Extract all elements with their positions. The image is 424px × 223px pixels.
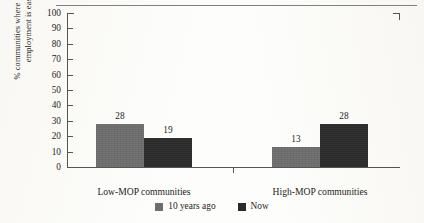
chart-page: % communities where private employment i…: [0, 0, 424, 223]
x-category-label-low-mop: Low-MOP communities: [64, 187, 224, 197]
y-tick-30: [68, 121, 73, 122]
bar-high-mop-10-years-ago: [272, 147, 320, 167]
y-tick-label-60: 60: [37, 71, 61, 80]
y-tick-label-0: 0: [37, 163, 61, 172]
y-tick-60: [68, 75, 73, 76]
y-tick-label-100: 100: [37, 9, 61, 18]
bar-low-mop-10-years-ago: [96, 124, 144, 167]
legend-item-now: Now: [238, 202, 269, 211]
legend-swatch-icon-now: [238, 203, 246, 211]
legend-swatch-icon-10-years-ago: [155, 203, 163, 211]
legend-label-10-years-ago: 10 years ago: [168, 202, 215, 211]
y-tick-90: [68, 28, 73, 29]
y-tick-100: [68, 13, 73, 14]
bar-label-low-mop-now: 19: [148, 126, 188, 135]
bar-high-mop-now: [320, 124, 368, 167]
y-tick-20: [68, 136, 73, 137]
y-tick-label-30: 30: [37, 117, 61, 126]
y-tick-50: [68, 90, 73, 91]
y-tick-label-40: 40: [37, 101, 61, 110]
bar-label-high-mop-10-years-ago: 13: [276, 135, 316, 144]
x-category-label-high-mop: High-MOP communities: [240, 187, 400, 197]
legend-item-10-years-ago: 10 years ago: [155, 202, 215, 211]
y-axis-title: % communities where private employment i…: [5, 0, 41, 113]
bar-low-mop-now: [144, 138, 192, 168]
y-tick-label-80: 80: [37, 40, 61, 49]
y-axis-title-line1: % communities where private: [12, 0, 23, 79]
axis-right-stub: [399, 13, 400, 20]
y-tick-0: [68, 167, 73, 168]
y-tick-label-90: 90: [37, 24, 61, 33]
y-axis-title-line2: employment is easy: [23, 0, 34, 79]
y-tick-label-10: 10: [37, 148, 61, 157]
y-tick-label-20: 20: [37, 132, 61, 141]
y-tick-80: [68, 44, 73, 45]
y-tick-40: [68, 105, 73, 106]
y-tick-70: [68, 59, 73, 60]
bar-label-high-mop-now: 28: [324, 112, 364, 121]
chart-legend: 10 years ago Now: [0, 202, 424, 211]
page-top-rule: [56, 5, 417, 6]
bar-label-low-mop-10-years-ago: 28: [100, 112, 140, 121]
x-group-separator-tick: [233, 168, 234, 173]
y-tick-label-70: 70: [37, 55, 61, 64]
plot-area: 100 90 80 70 60 50 40 30 20 10 0 28 19 1…: [67, 13, 400, 168]
legend-label-now: Now: [251, 202, 269, 211]
y-tick-label-50: 50: [37, 86, 61, 95]
y-tick-10: [68, 152, 73, 153]
